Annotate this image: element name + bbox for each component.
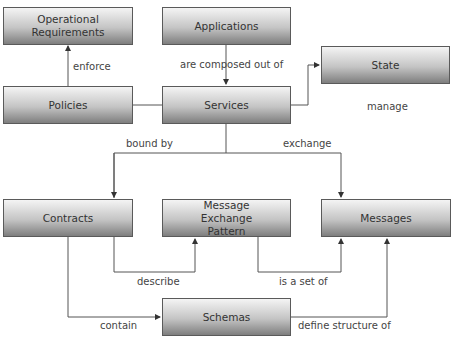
edge-label-enforce: enforce (73, 61, 111, 72)
edge-label-composed: are composed out of (180, 59, 283, 70)
node-label: Operational Requirements (4, 13, 132, 39)
node-message-exchange-pattern[interactable]: Message Exchange Pattern (162, 199, 291, 237)
node-label: Messages (360, 212, 412, 225)
edge-label-manage: manage (367, 101, 408, 112)
node-label: Services (204, 99, 248, 112)
node-label: State (372, 59, 400, 72)
edge-label-bound-by: bound by (126, 138, 173, 149)
node-services[interactable]: Services (162, 86, 291, 124)
node-state[interactable]: State (321, 46, 450, 84)
node-label: Message Exchange Pattern (181, 199, 272, 238)
node-label: Policies (49, 99, 88, 112)
node-operational-requirements[interactable]: Operational Requirements (3, 7, 133, 45)
node-label: Contracts (43, 212, 94, 225)
node-applications[interactable]: Applications (162, 7, 291, 45)
node-schemas[interactable]: Schemas (162, 298, 291, 336)
edge-label-define-structure: define structure of (298, 320, 391, 331)
node-policies[interactable]: Policies (3, 86, 133, 124)
edge-label-contain: contain (100, 320, 137, 331)
node-contracts[interactable]: Contracts (3, 199, 133, 237)
node-label: Applications (194, 20, 258, 33)
edge-label-exchange: exchange (283, 138, 332, 149)
node-label: Schemas (203, 311, 251, 324)
edge-label-is-a-set-of: is a set of (279, 276, 328, 287)
edge-label-describe: describe (137, 276, 180, 287)
node-messages[interactable]: Messages (321, 199, 451, 237)
